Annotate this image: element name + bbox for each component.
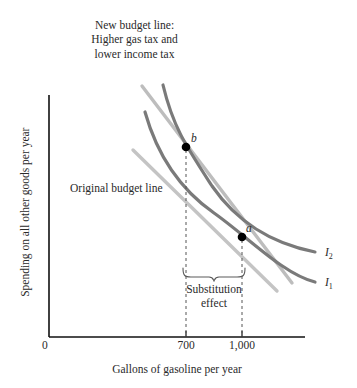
data-point-a xyxy=(238,233,247,242)
x-tick-label-700: 700 xyxy=(172,338,200,352)
curve-label-i1-subscript: 1 xyxy=(329,282,333,291)
substitution-brace xyxy=(183,268,245,281)
annotation-substitution-effect-1: Substitution xyxy=(186,283,242,295)
curve-label-i1: I1 xyxy=(325,275,333,292)
annotation-new-budget-line-1: New budget line: xyxy=(95,19,174,31)
x-tick-label-0: 0 xyxy=(42,338,48,352)
indifference-curve-i1 xyxy=(145,112,315,282)
annotation-new-budget-line-2: Higher gas tax and xyxy=(91,33,178,45)
annotation-original-budget-line: Original budget line xyxy=(70,181,163,195)
point-label-b: b xyxy=(191,131,197,145)
x-tick-label-1000: 1,000 xyxy=(224,338,260,352)
data-point-b xyxy=(182,143,191,152)
annotation-new-budget-line: New budget line:Higher gas tax andlower … xyxy=(72,18,197,61)
annotation-substitution-effect-2: effect xyxy=(201,297,227,309)
curve-label-i2-subscript: 2 xyxy=(329,252,333,261)
annotation-substitution-effect: Substitutioneffect xyxy=(176,282,252,311)
y-axis-label: Spending on all other goods per year xyxy=(18,117,32,307)
new-budget-line-curve xyxy=(142,86,292,283)
point-label-a: a xyxy=(246,221,252,235)
x-axis-label: Gallons of gasoline per year xyxy=(49,362,305,376)
curve-label-i2: I2 xyxy=(325,245,333,262)
annotation-new-budget-line-3: lower income tax xyxy=(95,48,175,60)
figure-container: New budget line:Higher gas tax andlower … xyxy=(0,0,357,388)
